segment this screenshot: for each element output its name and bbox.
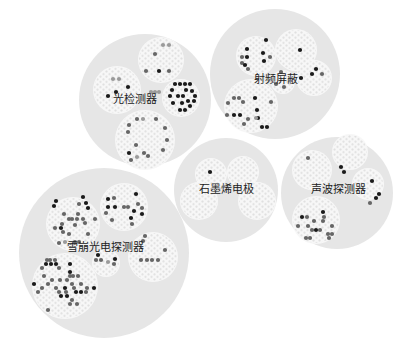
data-dot (157, 90, 161, 94)
data-dot (183, 82, 187, 86)
data-dot (129, 158, 133, 162)
data-dot (71, 274, 75, 278)
data-dot (178, 82, 182, 86)
data-dot (181, 94, 185, 98)
data-dot (312, 219, 316, 223)
data-dot (314, 67, 318, 71)
data-dot (298, 48, 302, 52)
data-dot (73, 223, 77, 227)
data-dot (304, 236, 308, 240)
data-dot (163, 248, 167, 252)
data-dot (104, 211, 108, 215)
data-dot (262, 59, 266, 63)
data-dot (342, 170, 346, 174)
data-dot (192, 99, 196, 103)
group-label: 声波探测器 (311, 182, 366, 196)
data-dot (93, 217, 97, 221)
data-dot (173, 82, 177, 86)
data-dot (310, 228, 314, 232)
data-dot (83, 221, 87, 225)
data-dot (165, 138, 169, 142)
data-dot (53, 226, 57, 230)
data-dot (146, 154, 150, 158)
data-dot (81, 217, 85, 221)
data-dot (77, 202, 81, 206)
data-dot (321, 219, 325, 223)
data-dot (68, 302, 72, 306)
data-dot (134, 143, 138, 147)
data-dot (245, 55, 249, 59)
data-dot (62, 212, 66, 216)
child-bubble-grid (293, 197, 339, 243)
data-dot (310, 72, 314, 76)
data-dot (59, 226, 63, 230)
data-dot (225, 113, 229, 117)
data-dot (157, 69, 161, 73)
data-dot (126, 205, 130, 209)
data-dot (57, 290, 61, 294)
data-dot (57, 266, 61, 270)
data-dot (377, 192, 381, 196)
group-label: 光检测器 (113, 92, 157, 106)
data-dot (339, 165, 343, 169)
data-dot (40, 286, 44, 290)
data-dot (106, 197, 110, 201)
data-dot (113, 257, 117, 261)
data-dot (330, 224, 334, 228)
data-dot (154, 117, 158, 121)
data-dot (238, 113, 242, 117)
data-dot (264, 38, 268, 42)
data-dot (243, 63, 247, 67)
data-dot (86, 232, 90, 236)
data-dot (163, 126, 167, 130)
data-dot (330, 232, 334, 236)
data-dot (61, 230, 65, 234)
data-dot (193, 94, 197, 98)
data-dot (167, 43, 171, 47)
data-dot (240, 55, 244, 59)
data-dot (370, 179, 374, 183)
data-dot (68, 270, 72, 274)
data-dot (327, 236, 331, 240)
data-dot (167, 69, 171, 73)
data-dot (269, 100, 273, 104)
child-bubble-grid (94, 67, 140, 113)
data-dot (127, 123, 131, 127)
data-dot (318, 228, 322, 232)
data-dot (79, 290, 83, 294)
data-dot (141, 117, 145, 121)
data-dot (50, 278, 54, 282)
data-dot (134, 192, 138, 196)
group-label: 射频屏蔽 (254, 72, 298, 86)
data-dot (140, 212, 144, 216)
data-dot (117, 77, 121, 81)
data-dot (254, 116, 258, 120)
data-dot (85, 286, 89, 290)
data-dot (112, 262, 116, 266)
data-dot (65, 278, 69, 282)
data-dot (72, 286, 76, 290)
data-dot (241, 100, 245, 104)
data-dot (208, 170, 212, 174)
group-label: 石墨烯电极 (199, 182, 254, 196)
data-dot (140, 206, 144, 210)
data-dot (75, 217, 79, 221)
data-dot (156, 258, 160, 262)
data-dot (110, 218, 114, 222)
data-dot (122, 205, 126, 209)
data-dot (242, 122, 246, 126)
data-dot (57, 241, 61, 245)
data-dot (64, 290, 68, 294)
data-dot (112, 196, 116, 200)
data-dot (126, 130, 130, 134)
data-dot (265, 125, 269, 129)
data-dot (368, 201, 372, 205)
data-dot (32, 282, 36, 286)
data-dot (176, 94, 180, 98)
data-dot (130, 222, 134, 226)
data-dot (305, 215, 309, 219)
data-dot (320, 72, 324, 76)
data-dot (46, 308, 50, 312)
data-dot (183, 108, 187, 112)
data-dot (75, 302, 79, 306)
